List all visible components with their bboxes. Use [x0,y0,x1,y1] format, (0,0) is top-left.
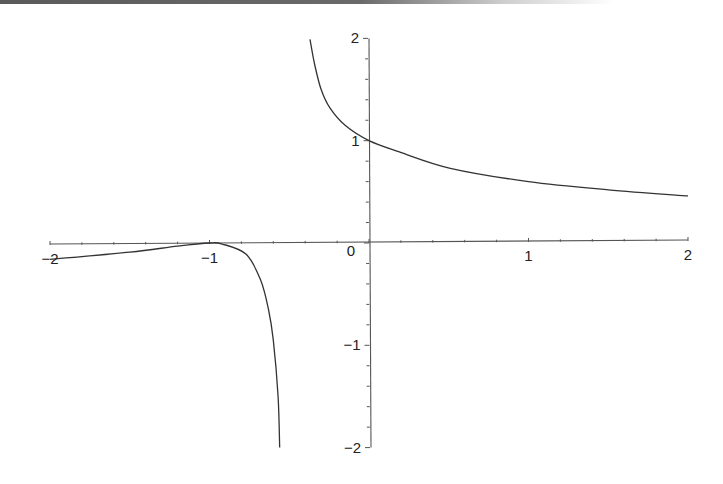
y-tick-label: 2 [351,29,359,46]
y-tick-label: 1 [351,132,359,149]
right-branch-curve [310,39,688,196]
left-branch-curve [50,243,280,448]
x-tick-label: −2 [41,250,58,267]
y-tick-label: −1 [343,336,360,353]
x-tick-label: 2 [684,246,692,263]
origin-label: 0 [347,242,355,259]
x-tick-label: −1 [201,249,218,266]
plot-area: −2−112021−1−2 [0,0,723,484]
x-tick-label: 1 [524,247,532,264]
axes [50,38,688,447]
y-tick-label: −2 [344,439,361,456]
